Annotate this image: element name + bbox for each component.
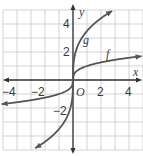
x-tick-2: 2 (97, 85, 104, 99)
y-axis-label: y (78, 5, 85, 19)
y-tick-4: 4 (63, 17, 70, 31)
y-tick-2: 2 (63, 45, 70, 59)
y-axis-down-arrow-icon (71, 148, 76, 154)
x-axis-left-arrow-icon (3, 78, 9, 83)
origin-label: O (76, 85, 85, 99)
x-tick-neg2: −2 (31, 85, 45, 99)
curve-g-label: g (83, 33, 89, 47)
coordinate-graph: y x O g f −4 −2 2 4 4 2 −2 (0, 0, 143, 156)
curve-f-label: f (106, 47, 111, 61)
x-tick-4: 4 (125, 85, 132, 99)
x-tick-neg4: −4 (2, 85, 16, 99)
x-axis-label: x (132, 65, 139, 79)
y-axis-up-arrow-icon (71, 4, 76, 10)
y-tick-neg2: −2 (53, 104, 67, 118)
